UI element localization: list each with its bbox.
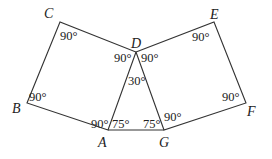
angle-b: 90° [29, 90, 47, 104]
label-e: E [209, 7, 219, 22]
label-d: D [130, 36, 141, 51]
angle-g-triangle: 75° [143, 117, 161, 131]
angle-e: 90° [192, 30, 210, 44]
angle-d-left: 90° [114, 51, 132, 65]
quadrilateral-abcd [27, 22, 136, 130]
quadrilateral-defg [136, 22, 246, 130]
label-a: A [97, 135, 107, 150]
angle-a-square: 90° [91, 117, 109, 131]
angle-c: 90° [60, 29, 78, 43]
label-f: F [246, 104, 256, 119]
angle-d-right: 90° [141, 51, 159, 65]
angle-d-triangle: 30° [128, 74, 146, 88]
angle-g-square: 90° [164, 110, 182, 124]
label-b: B [12, 101, 21, 116]
angle-f: 90° [222, 90, 240, 104]
angle-a-triangle: 75° [112, 117, 130, 131]
label-c: C [44, 6, 54, 21]
geometry-diagram: C B D E F A G 90° 90° 90° 90° 30° 90° 90… [0, 0, 272, 159]
label-g: G [159, 135, 169, 150]
